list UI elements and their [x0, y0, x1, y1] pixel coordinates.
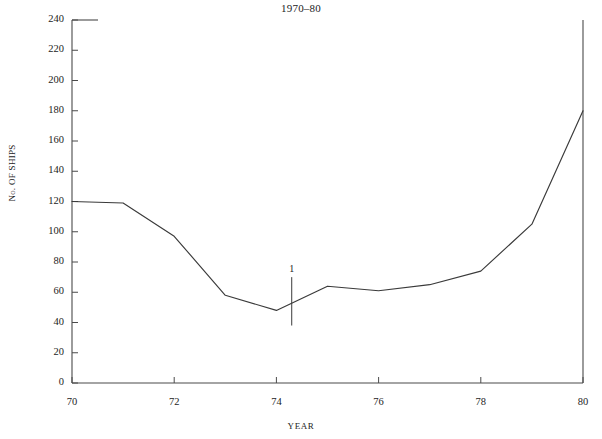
chart-container: 1970–80 No. OF SHIPS YEAR 02040608010012…	[0, 0, 602, 439]
axis-frame	[72, 20, 583, 383]
plot-area	[0, 0, 602, 439]
x-axis-ticks	[72, 377, 583, 383]
data-series-line	[72, 111, 583, 311]
series-polyline	[72, 111, 583, 311]
